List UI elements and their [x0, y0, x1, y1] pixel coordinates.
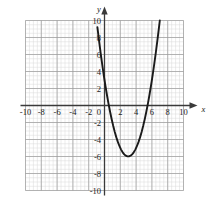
- graph-figure: -10-8-6-4-20246810-10-8-6-4-2246810 xy: [0, 0, 211, 202]
- y-tick-label: -4: [94, 135, 102, 145]
- x-axis-label: x: [201, 104, 206, 114]
- y-tick-label: -8: [94, 169, 101, 179]
- x-tick-label: -2: [85, 107, 92, 117]
- x-tick-label: 6: [150, 107, 154, 117]
- y-tick-label: 2: [97, 84, 101, 94]
- x-tick-label: -4: [69, 107, 77, 117]
- x-tick-label: 8: [166, 107, 170, 117]
- x-tick-label: -6: [54, 107, 61, 117]
- y-tick-label: -6: [94, 152, 101, 162]
- x-tick-label: 10: [179, 107, 188, 117]
- y-tick-label: -10: [90, 186, 101, 196]
- y-tick-label: 10: [93, 16, 102, 26]
- x-tick-label: -10: [20, 107, 31, 117]
- y-tick-label: 8: [97, 33, 101, 43]
- x-tick-label: 2: [118, 107, 122, 117]
- x-tick-label: 4: [134, 107, 139, 117]
- x-tick-label: -8: [38, 107, 45, 117]
- y-tick-label: 6: [97, 50, 101, 60]
- y-axis-label: y: [96, 4, 101, 14]
- coordinate-plane-graph: -10-8-6-4-20246810-10-8-6-4-2246810 xy: [0, 0, 211, 202]
- y-tick-label: -2: [94, 118, 101, 128]
- x-tick-label: 0: [97, 107, 101, 117]
